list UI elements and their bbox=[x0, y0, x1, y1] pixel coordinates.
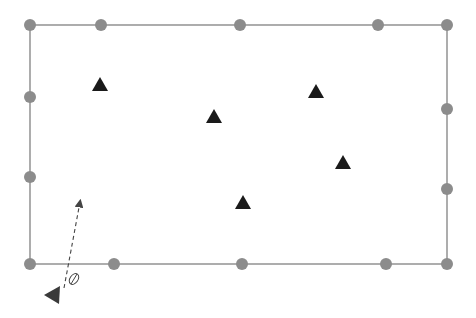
node-circle-icon bbox=[372, 19, 384, 31]
node-circle-icon bbox=[441, 258, 453, 270]
target-triangle-icon bbox=[335, 155, 351, 169]
node-circle-icon bbox=[24, 171, 36, 183]
diagram-canvas bbox=[0, 0, 476, 318]
target-triangle-icon bbox=[235, 195, 251, 209]
node-circle-icon bbox=[24, 91, 36, 103]
node-circle-icon bbox=[108, 258, 120, 270]
node-circle-icon bbox=[441, 19, 453, 31]
agent-icon bbox=[44, 286, 60, 304]
targets bbox=[92, 77, 351, 209]
boundary-rectangle bbox=[30, 25, 447, 264]
node-circle-icon bbox=[236, 258, 248, 270]
target-triangle-icon bbox=[92, 77, 108, 91]
node-circle-icon bbox=[234, 19, 246, 31]
node-circle-icon bbox=[380, 258, 392, 270]
angle-symbol bbox=[67, 272, 80, 286]
node-circle-icon bbox=[441, 103, 453, 115]
target-triangle-icon bbox=[308, 84, 324, 98]
diagram-svg bbox=[0, 0, 476, 318]
target-triangle-icon bbox=[206, 109, 222, 123]
boundary-nodes bbox=[24, 19, 453, 270]
node-circle-icon bbox=[24, 19, 36, 31]
node-circle-icon bbox=[24, 258, 36, 270]
node-circle-icon bbox=[95, 19, 107, 31]
node-circle-icon bbox=[441, 183, 453, 195]
